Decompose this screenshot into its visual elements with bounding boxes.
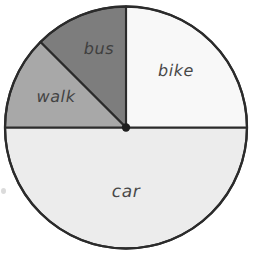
- scan-artifact-mark: [1, 188, 6, 194]
- pie-chart-figure: bike bus walk car: [0, 0, 253, 258]
- pie-chart-svg: [0, 0, 253, 258]
- pie-slice-bike: [126, 7, 247, 128]
- pie-slice-car: [5, 128, 247, 249]
- pie-center-dot: [122, 123, 130, 131]
